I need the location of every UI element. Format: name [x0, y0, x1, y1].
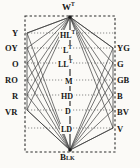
- axis-step-label: M: [65, 77, 73, 86]
- white-tint-pole-label: WT: [62, 2, 75, 12]
- hue-label-yellow: Y: [12, 29, 18, 38]
- white-pole-superscript: T: [71, 1, 75, 7]
- axis-step-superscript: T: [69, 58, 73, 64]
- black-pole-label: BLK: [60, 153, 75, 162]
- axis-step-label: LL: [58, 60, 69, 69]
- black-pole-suffix: LK: [66, 155, 75, 161]
- axis-step-high-light-tint: HLT: [59, 30, 76, 40]
- hue-label-green: G: [117, 60, 124, 69]
- axis-step-label: HD: [61, 92, 73, 101]
- axis-step-label: D: [65, 107, 71, 116]
- black-pole-node: [68, 148, 72, 152]
- hue-label-orange: O: [12, 60, 19, 69]
- axis-step-dark: D: [64, 106, 72, 116]
- hue-label-blue: B: [117, 92, 123, 101]
- axis-step-superscript: T: [68, 44, 72, 50]
- rays-white-to-right-hues: [70, 17, 113, 128]
- hue-label-yellow-green: YG: [117, 44, 130, 53]
- figure-canvas: WT HLT LT LLT M HD D LD BLK Y OY O RO R …: [0, 0, 140, 168]
- axis-step-label: LD: [61, 125, 72, 134]
- hue-label-red-orange: RO: [5, 76, 18, 85]
- axis-step-light-tint: LT: [62, 45, 73, 55]
- axis-step-low-light-tint: LLT: [57, 59, 73, 69]
- axis-step-middle: M: [64, 76, 74, 86]
- hue-label-blue-violet: BV: [117, 108, 129, 117]
- axis-step-low-dark: LD: [60, 124, 73, 134]
- hue-label-orange-yellow: OY: [5, 44, 18, 53]
- axis-step-label: HL: [60, 31, 72, 40]
- hue-label-red: R: [12, 92, 18, 101]
- axis-step-superscript: T: [72, 29, 76, 35]
- hue-label-violet-red: VR: [5, 108, 17, 117]
- axis-step-high-dark: HD: [60, 91, 74, 101]
- white-pole-node: [68, 15, 72, 19]
- white-pole-letter: W: [62, 2, 71, 12]
- hue-label-violet: V: [117, 125, 123, 134]
- hue-label-green-blue: GB: [117, 76, 129, 85]
